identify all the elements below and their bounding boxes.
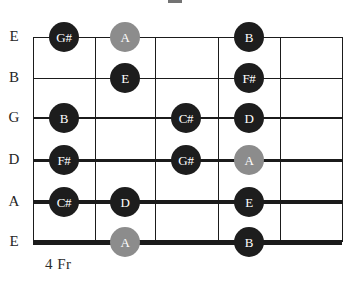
clipped-title-remnant (168, 0, 182, 3)
note-dot-gsharp-s0-f1[interactable]: G# (49, 22, 79, 52)
note-dot-label: B (60, 111, 68, 124)
note-dot-d-s2-f4[interactable]: D (234, 103, 264, 133)
string-label-1: B (3, 70, 25, 85)
string-line-a-4 (33, 200, 342, 204)
fret-line-1 (95, 37, 96, 242)
note-dot-label: D (120, 195, 129, 208)
fretboard-diagram: EBGDAE G#ABEF#BC#DF#G#AC#DEAB 4 Fr (0, 0, 355, 282)
note-dot-label: D (244, 111, 253, 124)
fret-line-2 (155, 37, 156, 242)
string-label-5: E (3, 234, 25, 249)
note-dot-csharp-s2-f3[interactable]: C# (171, 103, 201, 133)
note-dot-label: G# (56, 30, 71, 43)
fret-line-4 (280, 37, 281, 242)
note-dot-fsharp-s3-f1[interactable]: F# (49, 145, 79, 175)
note-dot-label: C# (179, 111, 194, 124)
fret-line-3 (218, 37, 219, 242)
note-dot-label: F# (242, 71, 255, 84)
note-dot-b-s0-f4[interactable]: B (234, 22, 264, 52)
note-dot-label: A (120, 235, 129, 248)
note-dot-e-s1-f2[interactable]: E (110, 63, 140, 93)
fret-position-label: 4 Fr (45, 256, 72, 272)
note-dot-label: B (245, 235, 253, 248)
note-dot-label: A (244, 153, 253, 166)
string-line-b-1 (33, 78, 342, 79)
fret-line-5 (342, 37, 343, 242)
note-dot-a-s5-f2[interactable]: A (110, 227, 140, 257)
note-dot-label: A (120, 30, 129, 43)
note-dot-gsharp-s3-f3[interactable]: G# (171, 145, 201, 175)
note-dot-b-s5-f4[interactable]: B (234, 227, 264, 257)
note-dot-a-s3-f4[interactable]: A (234, 145, 264, 175)
note-dot-label: G# (178, 153, 193, 166)
string-label-3: D (3, 152, 25, 167)
note-dot-a-s0-f2[interactable]: A (110, 22, 140, 52)
note-dot-e-s4-f4[interactable]: E (234, 187, 264, 217)
string-label-4: A (3, 194, 25, 209)
string-label-0: E (3, 29, 25, 44)
note-dot-fsharp-s1-f4[interactable]: F# (234, 63, 264, 93)
note-dot-label: C# (57, 195, 72, 208)
note-dot-label: F# (57, 153, 70, 166)
note-dot-b-s2-f1[interactable]: B (49, 103, 79, 133)
string-line-e-0 (33, 37, 342, 38)
note-dot-label: E (121, 71, 129, 84)
note-dot-label: E (245, 195, 253, 208)
note-dot-label: B (245, 30, 253, 43)
string-label-2: G (3, 110, 25, 125)
note-dot-csharp-s4-f1[interactable]: C# (49, 187, 79, 217)
note-dot-d-s4-f2[interactable]: D (110, 187, 140, 217)
fret-line-0 (33, 37, 34, 242)
string-line-e-5 (33, 240, 342, 245)
